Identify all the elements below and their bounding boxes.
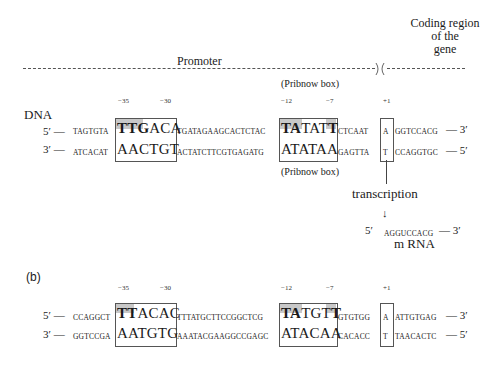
- pribnow-box-label-bottom: (Pribnow box): [281, 166, 339, 177]
- strand-end-top: — 3′: [446, 123, 468, 135]
- b-coding-bottom: TAACACTC: [395, 332, 436, 341]
- b-position-minus30: −30: [160, 284, 171, 292]
- position-plus1: +1: [383, 97, 390, 105]
- spacer-bottom: ACTATCTTCGTGAGATG: [177, 148, 264, 157]
- b-start-base-bottom: T: [383, 332, 388, 341]
- mrna-start: 5′: [365, 224, 373, 236]
- pribnow-box-label-top: (Pribnow box): [281, 78, 339, 89]
- break-marker-icon: [373, 62, 387, 76]
- b-minus35-seq-bottom: AATGTG: [117, 325, 178, 342]
- transcription-label: transcription: [352, 186, 418, 202]
- left-flank: TAGTGTA: [73, 127, 109, 136]
- b-minus35-seq-top: TTACAC: [117, 305, 180, 322]
- coding-top: GGTCCACG: [395, 127, 438, 136]
- b-strand-start-top: 5′ —: [43, 309, 65, 321]
- after10-bottom: GAGTTA: [338, 148, 369, 157]
- position-minus7: −7: [326, 97, 333, 105]
- position-minus35: −35: [118, 97, 129, 105]
- b-left-flank-bottom: GGTCCGA: [73, 332, 111, 341]
- b-position-minus35: −35: [118, 284, 129, 292]
- b-position-minus12: −12: [281, 284, 292, 292]
- strand-start: 5′ —: [43, 125, 65, 137]
- strand-start-bottom: 3′ —: [43, 143, 65, 155]
- top-strand-a: 5′ —: [43, 121, 65, 139]
- b-position-plus1: +1: [383, 284, 390, 292]
- after10-top: CTCAAT: [338, 127, 368, 136]
- b-left-flank-top: CCAGGCT: [73, 313, 110, 322]
- panel-b-label: (b): [26, 270, 41, 284]
- left-flank-bottom: ATCACAT: [73, 148, 108, 157]
- b-coding-top: ATTGTGAG: [395, 313, 437, 322]
- minus10-seq-bottom: ATATAA: [281, 141, 338, 158]
- b-strand-start-bottom: 3′ —: [43, 328, 65, 340]
- b-after10-top: GTGTGG: [338, 313, 370, 322]
- promoter-label: Promoter: [177, 54, 222, 69]
- spacer-top: TGATAGAAGCACTCTAC: [177, 127, 265, 136]
- b-minus10-seq-top: TATGTT: [281, 305, 341, 322]
- b-start-base-top: A: [383, 313, 389, 322]
- position-minus30: −30: [160, 97, 171, 105]
- b-spacer-bottom: AAATACGAAGGCCGAGC: [177, 332, 269, 341]
- coding-dashed-line: [387, 68, 465, 69]
- b-minus10-seq-bottom: ATACAA: [281, 325, 342, 342]
- strand-end-bottom: — 5′: [446, 144, 468, 156]
- down-arrow-icon: ↓: [382, 207, 388, 219]
- start-base-bottom: T: [383, 148, 388, 157]
- start-site-line: [386, 160, 387, 184]
- position-minus12: −12: [281, 97, 292, 105]
- b-spacer-top: TTTATGCTTCCGGCTCG: [177, 313, 263, 322]
- minus35-seq-top: TTGACA: [117, 120, 182, 137]
- b-strand-end-bottom: — 5′: [446, 328, 468, 340]
- minus35-seq-bottom: AACTGT: [117, 141, 179, 158]
- minus10-seq-top: TATATT: [281, 120, 338, 137]
- b-strand-end-top: — 3′: [446, 309, 468, 321]
- coding-region-label: Coding region of the gene: [395, 17, 489, 56]
- mrna-label: m RNA: [394, 236, 435, 252]
- mrna-end: — 3′: [439, 224, 461, 236]
- b-position-minus7: −7: [326, 284, 333, 292]
- coding-bottom: CCAGGTGC: [395, 148, 438, 157]
- coding-label-line3: gene: [395, 43, 489, 56]
- promoter-dashed-line: [23, 68, 375, 69]
- b-after10-bottom: CACACC: [338, 332, 370, 341]
- start-base-top: A: [383, 127, 389, 136]
